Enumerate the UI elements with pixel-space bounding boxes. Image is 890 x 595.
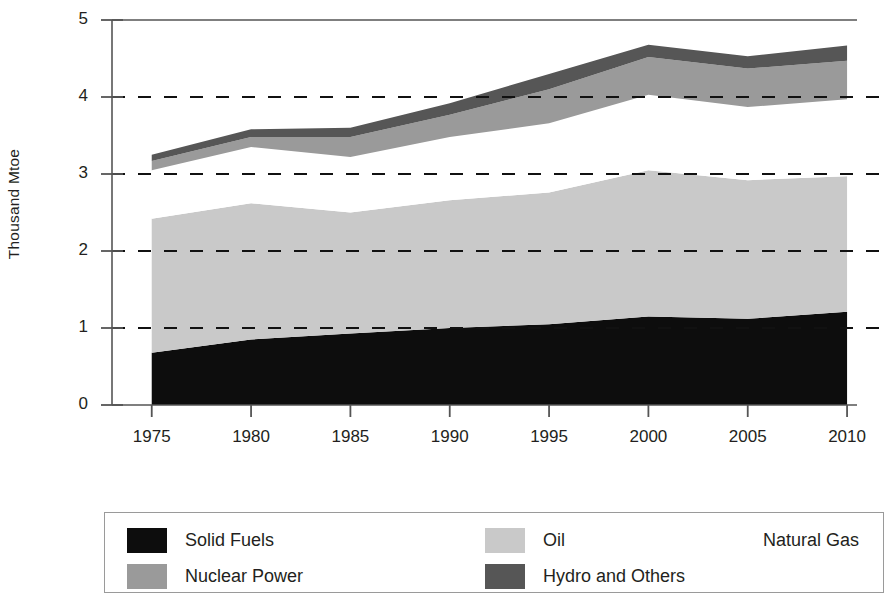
stacked-area-chart-svg xyxy=(0,0,890,470)
legend-swatch-natural-gas xyxy=(705,528,745,553)
legend-entry-nuclear-power: Nuclear Power xyxy=(127,561,303,591)
x-tick-label-1990: 1990 xyxy=(415,427,485,447)
y-tick-label-3: 3 xyxy=(54,163,88,183)
legend-label-oil: Oil xyxy=(543,530,565,551)
legend-swatch-oil xyxy=(485,528,525,553)
legend-label-solid-fuels: Solid Fuels xyxy=(185,530,274,551)
x-tick-label-2000: 2000 xyxy=(613,427,683,447)
legend-grid: Solid FuelsOilNatural GasNuclear PowerHy… xyxy=(105,513,883,592)
legend-entry-hydro-and-others: Hydro and Others xyxy=(485,561,685,591)
chart-plot-area: Thousand Mtoe 543210 1975198019851990199… xyxy=(0,0,890,470)
legend-swatch-nuclear-power xyxy=(127,564,167,589)
legend-label-hydro-and-others: Hydro and Others xyxy=(543,566,685,587)
legend-swatch-solid-fuels xyxy=(127,528,167,553)
area-band-group xyxy=(152,45,847,405)
legend-label-nuclear-power: Nuclear Power xyxy=(185,566,303,587)
y-tick-label-2: 2 xyxy=(54,240,88,260)
y-axis-title: Thousand Mtoe xyxy=(5,124,23,284)
legend-label-natural-gas: Natural Gas xyxy=(763,530,859,551)
x-tick-label-1980: 1980 xyxy=(216,427,286,447)
y-tick-label-1: 1 xyxy=(54,317,88,337)
legend-entry-natural-gas: Natural Gas xyxy=(705,525,859,555)
y-tick-label-5: 5 xyxy=(54,9,88,29)
legend-swatch-hydro-and-others xyxy=(485,564,525,589)
chart-legend: Solid FuelsOilNatural GasNuclear PowerHy… xyxy=(104,512,884,593)
y-tick-label-0: 0 xyxy=(54,394,88,414)
y-tick-label-4: 4 xyxy=(54,86,88,106)
x-tick-label-2010: 2010 xyxy=(812,427,882,447)
legend-entry-oil: Oil xyxy=(485,525,565,555)
legend-entry-solid-fuels: Solid Fuels xyxy=(127,525,274,555)
x-tick-label-2005: 2005 xyxy=(713,427,783,447)
x-tick-label-1975: 1975 xyxy=(117,427,187,447)
x-tick-label-1985: 1985 xyxy=(315,427,385,447)
x-tick-label-1995: 1995 xyxy=(514,427,584,447)
energy-consumption-stacked-area-figure: Thousand Mtoe 543210 1975198019851990199… xyxy=(0,0,890,595)
